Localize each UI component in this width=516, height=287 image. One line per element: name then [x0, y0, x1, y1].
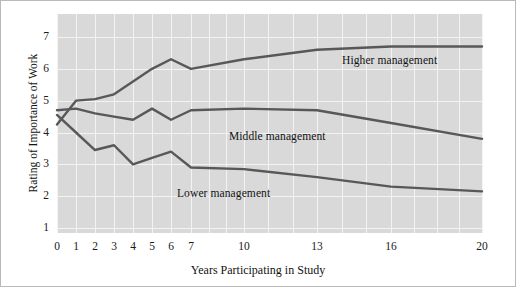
chart-figure: Rating of Importance of Work 1234567 012… — [0, 0, 516, 287]
plot-area — [57, 14, 482, 233]
x-tick-label: 7 — [178, 241, 204, 253]
x-tick-label: 16 — [378, 241, 404, 253]
x-tick-label: 10 — [231, 241, 257, 253]
x-tick-label: 20 — [469, 241, 495, 253]
series-annotation: Higher management — [342, 54, 437, 66]
series-annotation: Lower management — [177, 187, 270, 199]
series-line-lower-management — [57, 115, 482, 191]
series-container — [57, 14, 482, 233]
x-axis-label: Years Participating in Study — [1, 263, 515, 278]
series-annotation: Middle management — [229, 130, 326, 142]
x-tick-label: 13 — [304, 241, 330, 253]
